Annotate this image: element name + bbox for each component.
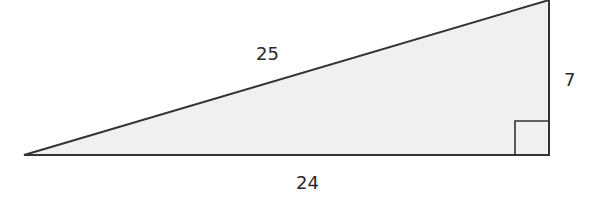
horizontal-leg-label: 24 bbox=[296, 174, 319, 192]
vertical-leg-label: 7 bbox=[564, 71, 575, 89]
right-triangle bbox=[24, 0, 549, 155]
hypotenuse-label: 25 bbox=[256, 45, 279, 63]
